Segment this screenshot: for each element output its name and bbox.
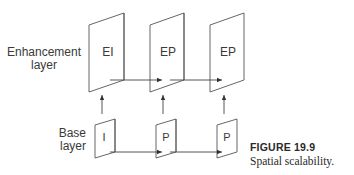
enhancement-label-line2: layer <box>2 59 86 72</box>
frame-label-ep-1: EP <box>155 45 181 59</box>
figure-caption-title: FIGURE 19.9 <box>250 141 315 153</box>
figure-caption-text: Spatial scalability. <box>250 155 334 167</box>
frame-label-p-2: P <box>220 131 234 143</box>
frame-label-i: I <box>97 131 111 143</box>
frame-label-ep-2: EP <box>215 45 241 59</box>
frame-label-ei: EI <box>96 45 120 59</box>
base-label-line2: layer <box>46 140 86 153</box>
enhancement-layer-label: Enhancement layer <box>2 46 86 72</box>
base-layer-label: Base layer <box>46 127 86 153</box>
frame-label-p-1: P <box>159 131 173 143</box>
